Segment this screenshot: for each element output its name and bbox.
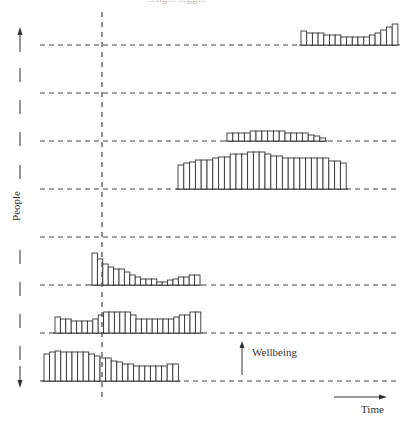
wellbeing-bar bbox=[219, 157, 225, 189]
wellbeing-bar bbox=[317, 158, 323, 189]
wellbeing-bar bbox=[55, 351, 61, 381]
wellbeing-bar bbox=[184, 163, 190, 189]
wellbeing-bar bbox=[122, 364, 128, 381]
wellbeing-bar bbox=[340, 163, 346, 189]
wellbeing-bar bbox=[195, 160, 201, 189]
wellbeing-bar bbox=[128, 364, 134, 381]
wellbeing-bar bbox=[335, 35, 341, 45]
wellbeing-bar bbox=[297, 133, 303, 141]
wellbeing-bar bbox=[151, 279, 156, 285]
wellbeing-bar bbox=[392, 24, 398, 45]
wellbeing-bar bbox=[250, 131, 256, 141]
wellbeing-bar bbox=[61, 352, 67, 381]
wellbeing-bar bbox=[364, 37, 370, 45]
wellbeing-bar bbox=[242, 154, 248, 189]
wellbeing-bar bbox=[311, 158, 317, 189]
wellbeing-bar bbox=[271, 156, 277, 189]
wellbeing-scale-arrow bbox=[240, 341, 245, 375]
wellbeing-bar bbox=[146, 279, 151, 285]
wellbeing-bar bbox=[125, 312, 130, 333]
wellbeing-bar bbox=[195, 312, 200, 333]
wellbeing-bar bbox=[201, 160, 207, 189]
arrow-up-icon bbox=[18, 27, 23, 35]
wellbeing-bar bbox=[89, 354, 95, 381]
wellbeing-bar bbox=[329, 161, 335, 189]
wellbeing-bar bbox=[167, 364, 173, 381]
wellbeing-bar bbox=[227, 133, 233, 141]
wellbeing-bar bbox=[369, 35, 375, 45]
wellbeing-bar bbox=[259, 152, 265, 189]
wellbeing-bar bbox=[244, 133, 250, 141]
wellbeing-bar bbox=[207, 160, 213, 189]
wellbeing-bar bbox=[83, 352, 89, 381]
wellbeing-bar bbox=[285, 133, 291, 141]
wellbeing-bar bbox=[156, 366, 162, 381]
wellbeing-bar bbox=[106, 358, 112, 381]
wellbeing-bar bbox=[87, 321, 92, 333]
wellbeing-bar bbox=[168, 319, 173, 333]
wellbeing-bar bbox=[130, 275, 135, 285]
wellbeing-bar bbox=[93, 319, 98, 333]
wellbeing-bar bbox=[248, 152, 254, 189]
wellbeing-bar bbox=[114, 269, 119, 285]
wellbeing-bar bbox=[190, 312, 195, 333]
wellbeing-bar bbox=[184, 277, 189, 285]
wellbeing-bar bbox=[256, 131, 262, 141]
wellbeing-bar bbox=[108, 267, 113, 285]
wellbeing-timeline-diagram bbox=[0, 0, 411, 427]
wellbeing-bar bbox=[66, 319, 71, 333]
wellbeing-bar bbox=[150, 366, 156, 381]
wellbeing-bar bbox=[314, 136, 320, 141]
wellbeing-bar bbox=[55, 317, 60, 333]
wellbeing-bar bbox=[323, 158, 329, 189]
wellbeing-bar bbox=[111, 361, 117, 381]
wellbeing-bar bbox=[330, 35, 336, 45]
x-axis-label: Time bbox=[361, 403, 384, 415]
wellbeing-bar bbox=[233, 133, 239, 141]
wellbeing-bar bbox=[141, 279, 146, 285]
wellbeing-bar bbox=[300, 158, 306, 189]
wellbeing-bar bbox=[288, 158, 294, 189]
wellbeing-bar bbox=[307, 33, 313, 45]
wellbeing-bar bbox=[103, 264, 108, 285]
wellbeing-bar bbox=[341, 37, 347, 45]
wellbeing-bar bbox=[279, 131, 285, 141]
wellbeing-bar bbox=[224, 157, 230, 189]
wellbeing-bar bbox=[178, 277, 183, 285]
wellbeing-bar bbox=[152, 319, 157, 333]
wellbeing-bar bbox=[294, 158, 300, 189]
wellbeing-bar bbox=[302, 133, 308, 141]
wellbeing-bar bbox=[147, 319, 152, 333]
wellbeing-bar bbox=[239, 133, 245, 141]
wellbeing-bar bbox=[262, 131, 268, 141]
wellbeing-bar bbox=[358, 37, 364, 45]
wellbeing-bar bbox=[119, 269, 124, 285]
wellbeing-bar bbox=[387, 27, 393, 45]
wellbeing-bar bbox=[114, 312, 119, 333]
wellbeing-bar bbox=[135, 277, 140, 285]
wellbeing-bar bbox=[77, 321, 82, 333]
wellbeing-bar bbox=[158, 319, 163, 333]
wellbeing-bar bbox=[44, 354, 50, 381]
wellbeing-bar bbox=[352, 37, 358, 45]
wellbeing-bar bbox=[60, 319, 65, 333]
wellbeing-bar bbox=[277, 156, 283, 189]
wellbeing-bar bbox=[163, 319, 168, 333]
wellbeing-bar bbox=[100, 358, 106, 381]
wellbeing-bar bbox=[72, 352, 78, 381]
wellbeing-bar bbox=[178, 165, 184, 189]
wellbeing-bar bbox=[66, 352, 72, 381]
wellbeing-bar bbox=[312, 33, 318, 45]
wellbeing-bar bbox=[195, 275, 200, 285]
wellbeing-bar bbox=[320, 138, 326, 141]
wellbeing-bar bbox=[173, 279, 178, 285]
wellbeing-bar bbox=[117, 362, 123, 381]
wellbeing-bar bbox=[120, 312, 125, 333]
wellbeing-bar bbox=[282, 158, 288, 189]
wellbeing-bar bbox=[308, 135, 314, 141]
wellbeing-bar bbox=[268, 131, 274, 141]
wellbeing-bar bbox=[104, 312, 109, 333]
arrow-down-icon bbox=[18, 380, 23, 388]
wellbeing-bar bbox=[335, 161, 341, 189]
time-axis-arrow bbox=[334, 395, 387, 400]
